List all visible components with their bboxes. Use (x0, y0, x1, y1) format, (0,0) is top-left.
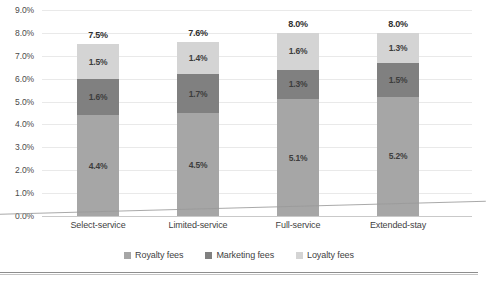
bar-segment[interactable]: 1.5% (77, 44, 119, 78)
bar-segment[interactable]: 1.3% (377, 33, 419, 63)
bar-segment[interactable]: 5.1% (277, 99, 319, 216)
legend-label: Marketing fees (216, 250, 274, 260)
bar-total-label: 8.0% (267, 19, 329, 29)
x-axis-category-labels: Select-serviceLimited-serviceFull-servic… (42, 220, 472, 238)
bar-segment[interactable]: 1.7% (177, 74, 219, 113)
bar-stack: 1.6%1.3%5.1% (277, 33, 319, 216)
bar-segment[interactable]: 4.4% (77, 115, 119, 216)
bar-segment-value-label: 5.2% (389, 151, 408, 161)
y-axis-tick-label: 9.0% (15, 6, 34, 15)
x-axis-category-label: Extended-stay (343, 220, 453, 230)
x-axis-category-label: Select-service (43, 220, 153, 230)
y-axis-tick-label: 6.0% (15, 74, 34, 83)
bar-segment-value-label: 1.6% (89, 92, 108, 102)
legend-label: Royalty fees (135, 250, 183, 260)
bars-layer: 1.5%1.6%4.4%7.5%1.4%1.7%4.5%7.6%1.6%1.3%… (42, 10, 472, 216)
page-divider-rule-thin (0, 274, 478, 275)
legend-swatch-icon (205, 252, 212, 259)
legend-item[interactable]: Loyalty fees (296, 250, 354, 260)
legend-item[interactable]: Marketing fees (205, 250, 274, 260)
y-axis-tick-label: 7.0% (15, 51, 34, 60)
y-axis-tick-label: 8.0% (15, 28, 34, 37)
bar-total-label: 7.6% (167, 28, 229, 38)
legend-swatch-icon (124, 252, 131, 259)
x-axis-category-label: Limited-service (143, 220, 253, 230)
bar-segment[interactable]: 4.5% (177, 113, 219, 216)
y-axis-tick-label: 3.0% (15, 143, 34, 152)
legend-label: Loyalty fees (307, 250, 354, 260)
bar-segment-value-label: 4.4% (89, 161, 108, 171)
legend-swatch-icon (296, 252, 303, 259)
y-axis-tick-label: 2.0% (15, 166, 34, 175)
bar-segment[interactable]: 1.6% (77, 79, 119, 116)
y-axis-tick-label: 1.0% (15, 189, 34, 198)
y-axis-tick-label: 4.0% (15, 120, 34, 129)
bar-segment-value-label: 1.6% (289, 46, 308, 56)
bar-segment[interactable]: 1.4% (177, 42, 219, 74)
bar-stack: 1.4%1.7%4.5% (177, 42, 219, 216)
bar-segment[interactable]: 1.6% (277, 33, 319, 70)
bar-segment[interactable]: 5.2% (377, 97, 419, 216)
chart-legend: Royalty feesMarketing feesLoyalty fees (0, 250, 478, 260)
y-axis: 9.0%8.0%7.0%6.0%5.0%4.0%3.0%2.0%1.0%0.0% (0, 10, 38, 216)
bar-total-label: 8.0% (367, 19, 429, 29)
bar-segment-value-label: 4.5% (189, 160, 208, 170)
y-axis-tick-label: 5.0% (15, 97, 34, 106)
x-axis-category-label: Full-service (243, 220, 353, 230)
bar-segment-value-label: 1.5% (389, 75, 408, 85)
bar-segment[interactable]: 1.3% (277, 70, 319, 100)
bar-segment-value-label: 1.3% (389, 43, 408, 53)
bar-segment-value-label: 1.7% (189, 89, 208, 99)
bar-segment[interactable]: 1.5% (377, 63, 419, 97)
bar-stack: 1.3%1.5%5.2% (377, 33, 419, 216)
bar-segment-value-label: 1.4% (189, 53, 208, 63)
bar-stack: 1.5%1.6%4.4% (77, 44, 119, 216)
bar-total-label: 7.5% (67, 30, 129, 40)
gridline (42, 216, 472, 217)
y-axis-tick-label: 0.0% (15, 212, 34, 221)
bar-segment-value-label: 1.3% (289, 79, 308, 89)
bar-segment-value-label: 1.5% (89, 57, 108, 67)
legend-item[interactable]: Royalty fees (124, 250, 183, 260)
bar-segment-value-label: 5.1% (289, 153, 308, 163)
page-divider-rule (0, 272, 478, 273)
